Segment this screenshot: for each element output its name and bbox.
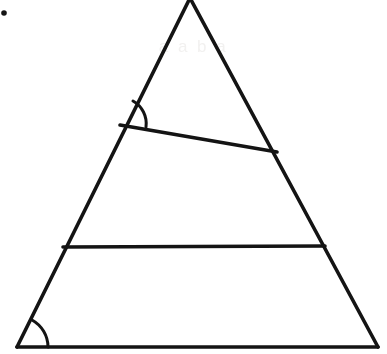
angle-arc-bottom-left <box>32 320 48 347</box>
upper-transversal-line <box>120 125 277 152</box>
geometry-canvas <box>0 0 387 354</box>
geometry-figure: a a b a <box>0 0 387 354</box>
transversal-lines <box>63 125 325 247</box>
triangle-outline <box>17 0 378 347</box>
triangle-left-side <box>17 0 190 347</box>
angle-arc-upper-left <box>133 101 146 127</box>
scan-speck <box>1 10 7 16</box>
angle-markers <box>32 101 146 347</box>
triangle-right-side <box>190 0 378 347</box>
lower-horizontal-line <box>63 246 325 247</box>
